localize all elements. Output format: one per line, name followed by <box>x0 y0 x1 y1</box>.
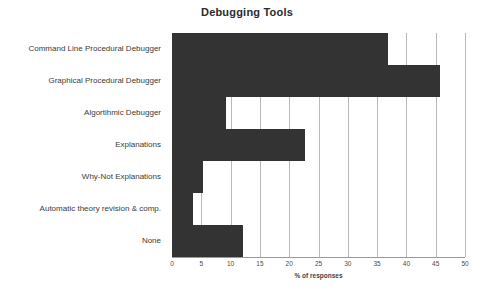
bar[interactable] <box>172 65 440 97</box>
category-label: Graphical Procedural Debugger <box>48 65 161 97</box>
y-axis-category-labels: Command Line Procedural DebuggerGraphica… <box>0 33 167 257</box>
x-tick-label: 40 <box>403 260 410 267</box>
x-axis-label: % of responses <box>172 272 465 279</box>
bar[interactable] <box>172 97 226 129</box>
x-tick-label: 0 <box>170 260 174 267</box>
gridline-50 <box>465 33 466 257</box>
category-label: Explanations <box>115 129 161 161</box>
bar[interactable] <box>172 225 243 257</box>
x-tick-label: 25 <box>315 260 322 267</box>
plot-area <box>172 33 465 257</box>
bar-chart: Debugging Tools Command Line Procedural … <box>0 0 494 300</box>
category-label: Algortihmic Debugger <box>84 97 161 129</box>
bar[interactable] <box>172 161 203 193</box>
bar-row <box>172 193 465 225</box>
x-tick-label: 30 <box>344 260 351 267</box>
bar-row <box>172 161 465 193</box>
bar-row <box>172 33 465 65</box>
x-tick-label: 50 <box>461 260 468 267</box>
x-tick-label: 35 <box>373 260 380 267</box>
bar-row <box>172 97 465 129</box>
x-tick-label: 15 <box>256 260 263 267</box>
category-label: Why-Not Explanations <box>82 161 161 193</box>
x-axis-tick-labels: 05101520253035404550 <box>172 260 465 272</box>
x-tick-label: 10 <box>227 260 234 267</box>
bar[interactable] <box>172 193 193 225</box>
bar[interactable] <box>172 129 305 161</box>
chart-title: Debugging Tools <box>0 6 494 18</box>
x-axis-line <box>172 257 465 258</box>
category-label: Command Line Procedural Debugger <box>28 33 161 65</box>
x-tick-label: 5 <box>199 260 203 267</box>
bar-row <box>172 225 465 257</box>
bar-row <box>172 129 465 161</box>
category-label: None <box>142 225 161 257</box>
x-tick-label: 20 <box>286 260 293 267</box>
bar-row <box>172 65 465 97</box>
category-label: Automatic theory revision & comp. <box>40 193 161 225</box>
x-tick-label: 45 <box>432 260 439 267</box>
bar[interactable] <box>172 33 388 65</box>
